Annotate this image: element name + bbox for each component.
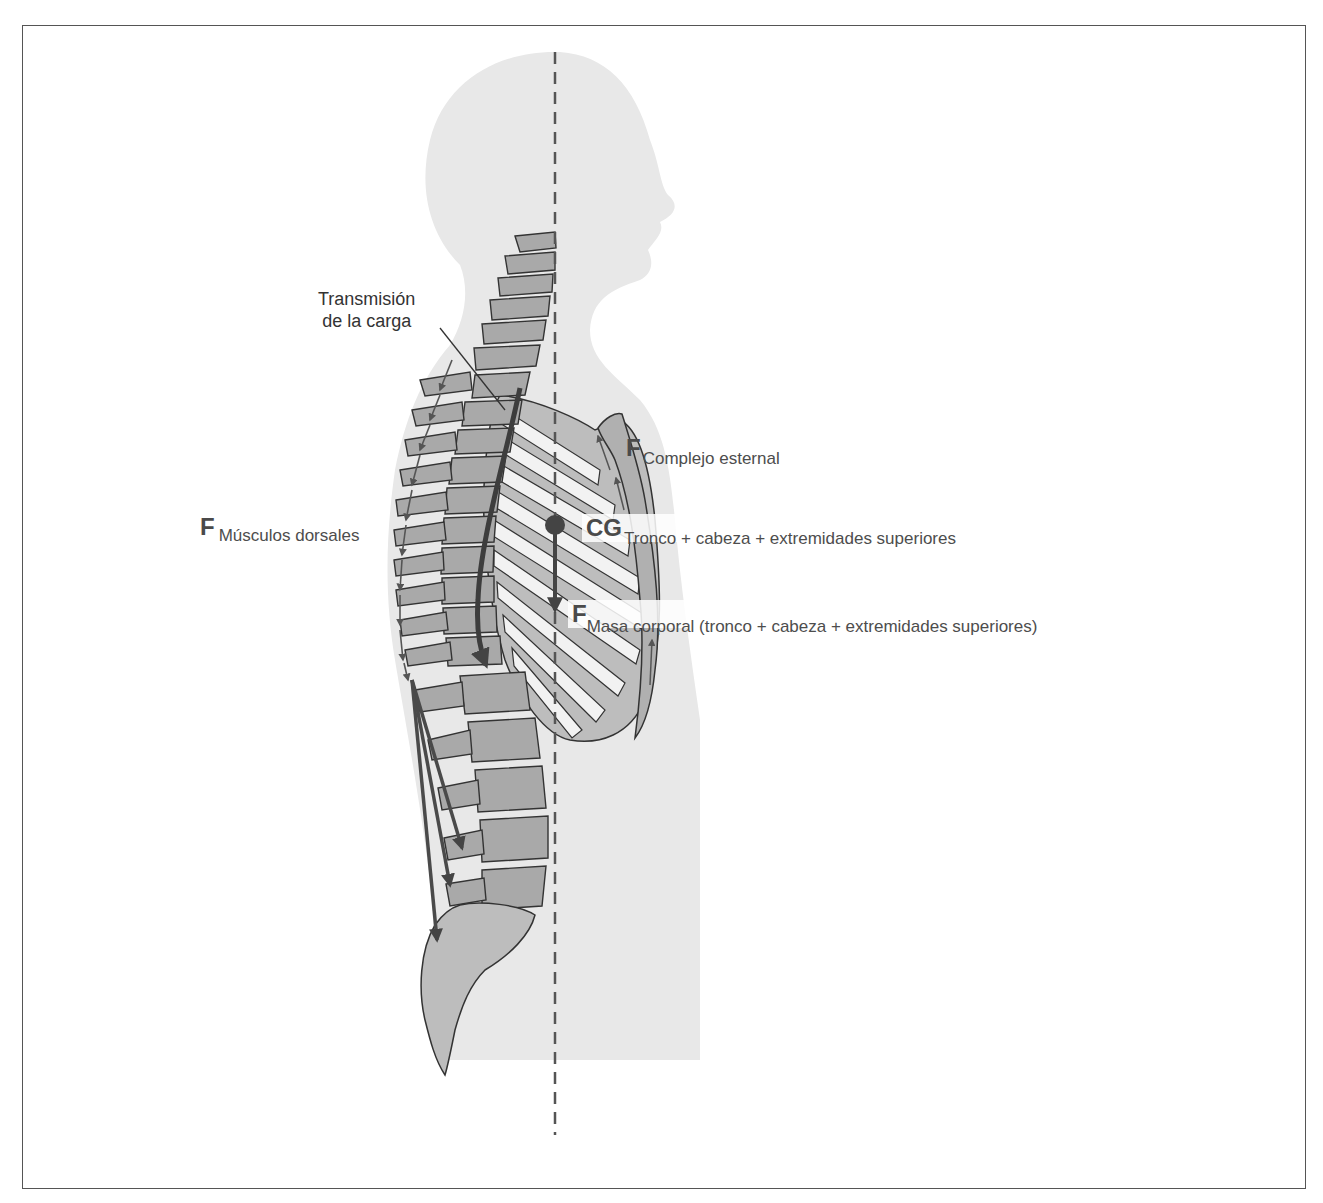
center-of-gravity-label: CGTronco + cabeza + extremidades superio… bbox=[582, 514, 960, 542]
force-symbol: F bbox=[572, 600, 587, 627]
sternal-force-subscript: Complejo esternal bbox=[643, 449, 780, 468]
sternal-force-label: FComplejo esternal bbox=[626, 436, 780, 460]
center-of-gravity-subscript: Tronco + cabeza + extremidades superiore… bbox=[624, 529, 956, 548]
force-symbol: F bbox=[626, 434, 641, 461]
force-symbol: F bbox=[200, 513, 215, 540]
dorsal-muscles-force-subscript: Músculos dorsales bbox=[219, 526, 360, 545]
load-transmission-label: Transmisión de la carga bbox=[318, 289, 415, 332]
body-mass-force-label: FMasa corporal (tronco + cabeza + extrem… bbox=[568, 600, 1041, 628]
load-transmission-line2: de la carga bbox=[318, 311, 415, 333]
body-mass-force-subscript: Masa corporal (tronco + cabeza + extremi… bbox=[587, 617, 1038, 636]
dorsal-muscles-force-label: FMúsculos dorsales bbox=[200, 515, 359, 539]
cg-symbol: CG bbox=[586, 514, 622, 541]
load-transmission-line1: Transmisión bbox=[318, 289, 415, 311]
